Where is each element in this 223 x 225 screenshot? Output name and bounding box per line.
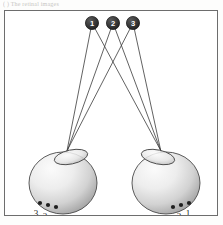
object-point-3-label: 3 xyxy=(131,19,135,28)
left-retina-label-1: 1 xyxy=(52,213,57,215)
right-retina-image-point-2 xyxy=(179,203,183,207)
right-eye: 3 2 1 xyxy=(132,147,200,215)
left-retina-image-point-3 xyxy=(38,201,42,205)
object-point-1-marker[interactable]: 1 xyxy=(85,16,98,29)
left-eye: 3 2 1 xyxy=(29,147,97,215)
figure-panel: 3 2 1 3 2 1 1 2 xyxy=(4,10,218,216)
right-retina-label-3: 3 xyxy=(168,213,173,215)
left-retina-label-2: 2 xyxy=(43,211,48,215)
binocular-projection-diagram: 3 2 1 3 2 1 1 2 xyxy=(5,11,217,215)
right-retina-image-point-3 xyxy=(171,205,175,209)
left-retina-label-3: 3 xyxy=(34,208,39,215)
right-retina-image-point-1 xyxy=(187,201,191,205)
left-retina-image-point-2 xyxy=(46,203,50,207)
object-point-2-label: 2 xyxy=(111,19,115,28)
object-point-1-label: 1 xyxy=(90,19,94,28)
object-point-3-marker[interactable]: 3 xyxy=(126,16,139,29)
right-retina-label-1: 1 xyxy=(186,208,191,215)
figure-caption: ( ) The retinal images xyxy=(0,0,223,9)
left-retina-image-point-1 xyxy=(54,205,58,209)
right-retina-label-2: 2 xyxy=(177,211,182,215)
object-point-2-marker[interactable]: 2 xyxy=(106,16,119,29)
figure-root: ( ) The retinal images xyxy=(0,0,223,225)
